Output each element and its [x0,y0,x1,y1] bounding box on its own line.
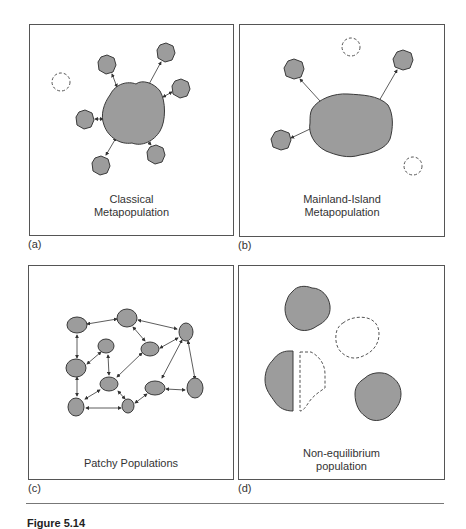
patch-node [66,359,86,377]
panel-title: Non-equilibrium population [239,447,444,473]
patch-node [187,378,203,398]
panel-title-line1: Non-equilibrium [239,447,444,460]
occupied-patch-blob [285,286,330,330]
patch-node [117,309,137,327]
partially-extinct-patch-half [300,352,325,411]
mainland-population-blob [310,94,393,157]
patch-node [68,398,84,416]
panel-mainland-island-metapopulation: Mainland-Island Metapopulation [239,24,445,237]
patch-node [98,339,114,353]
patch-node [179,323,193,341]
mainland-population-blob [102,82,164,144]
patch-node [100,377,118,391]
panel-title-line1: Classical [30,193,233,206]
panel-title-line1: Mainland-Island [240,193,444,206]
empty-patch-dashed [52,73,70,91]
panel-title: Classical Metapopulation [30,193,233,219]
panel-label-b: (b) [238,239,251,251]
patch-node [145,381,165,395]
occupied-patch-blob [355,373,401,421]
patch-node [67,317,87,333]
caption-divider [26,503,444,504]
figure-caption: Figure 5.14 [27,517,85,529]
patch-node [122,399,134,413]
network-links [77,319,195,408]
panel-title: Patchy Populations [29,457,233,470]
panel-label-c: (c) [28,482,41,494]
panel-patchy-populations: Patchy Populations [28,265,234,480]
panel-title-line2: Metapopulation [240,206,444,219]
partially-occupied-patch-half [265,351,293,411]
patch-node [141,342,159,356]
panel-classical-metapopulation: Classical Metapopulation [29,24,234,236]
panel-label-d: (d) [238,482,251,494]
panel-title-line2: Metapopulation [30,206,233,219]
extinct-patch-dashed [336,317,379,358]
panel-title: Mainland-Island Metapopulation [240,193,444,219]
panel-label-a: (a) [28,238,41,250]
population-patches [66,309,203,416]
panel-title-line2: population [239,460,444,473]
patchy-populations-network [29,266,235,481]
panel-non-equilibrium-population: Non-equilibrium population [238,265,445,480]
